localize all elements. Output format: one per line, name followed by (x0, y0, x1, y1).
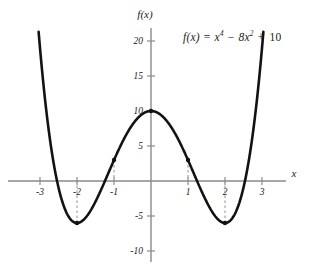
x-tick-label: 1 (186, 187, 191, 197)
y-tick-label: -10 (130, 246, 143, 256)
x-axis-name: x (291, 167, 297, 179)
function-plot-figure: -3-2-11232015105-5-10 f(x)x f(x) = x4 − … (0, 0, 312, 278)
marked-point (112, 158, 116, 162)
y-tick-label: 15 (134, 71, 144, 81)
x-tick-label: -3 (36, 187, 44, 197)
y-axis-name: f(x) (137, 8, 153, 21)
marked-point (75, 221, 79, 225)
y-tick-label: -5 (135, 211, 143, 221)
y-tick-label: 20 (134, 36, 144, 46)
marked-point (149, 109, 153, 113)
y-tick-label: 10 (134, 106, 144, 116)
x-tick-label: -1 (110, 187, 118, 197)
x-tick-label: 3 (259, 187, 265, 197)
equation-annotation: f(x) = x4 − 8x2 + 10 (183, 30, 282, 43)
y-tick-label: 5 (138, 141, 143, 151)
marked-point (223, 221, 227, 225)
marked-point (186, 158, 190, 162)
x-tick-label: -2 (73, 187, 81, 197)
x-tick-label: 2 (223, 187, 228, 197)
